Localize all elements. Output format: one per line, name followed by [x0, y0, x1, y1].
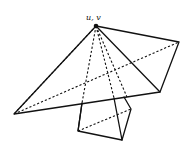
apex-label: u, v: [86, 13, 101, 22]
upper-quadrilateral: [14, 26, 179, 114]
dashed-diagonal-lower: [78, 109, 131, 131]
apex-point: [94, 24, 99, 29]
dashed-rays: [14, 26, 127, 131]
lower-quad-inner-edge: [114, 98, 122, 140]
dashed-diagonal-upper: [14, 42, 179, 114]
projection-diagram: u, v: [0, 0, 190, 148]
ray-lower-top-left: [82, 26, 96, 103]
ray-lower-right: [96, 26, 127, 97]
